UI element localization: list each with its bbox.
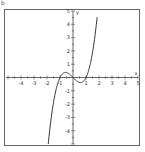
plot-area: -4-3-2-11234554321-1-2-3-4xy bbox=[0, 0, 145, 152]
y-tick-label: 5 bbox=[67, 8, 70, 14]
y-tick-label: 1 bbox=[67, 61, 70, 67]
y-tick-label: -2 bbox=[65, 101, 70, 107]
function-graph: b -4-3-2-11234554321-1-2-3-4xy bbox=[0, 0, 145, 152]
y-axis-label: y bbox=[76, 9, 79, 16]
y-tick-label: 3 bbox=[67, 34, 70, 40]
x-tick-label: 1 bbox=[84, 80, 87, 86]
x-tick-label: -3 bbox=[32, 80, 37, 86]
figure-label: b bbox=[1, 0, 5, 6]
x-tick-label: -4 bbox=[19, 80, 24, 86]
y-tick-label: -1 bbox=[65, 88, 70, 94]
tick-labels: -4-3-2-11234554321-1-2-3-4xy bbox=[19, 8, 140, 134]
x-tick-label: 2 bbox=[97, 80, 100, 86]
x-tick-label: -2 bbox=[45, 80, 50, 86]
y-tick-label: 2 bbox=[67, 48, 70, 54]
y-tick-label: 4 bbox=[67, 21, 70, 27]
y-tick-label: -4 bbox=[65, 128, 70, 134]
x-tick-label: 3 bbox=[110, 80, 113, 86]
y-tick-label: -3 bbox=[65, 114, 70, 120]
x-tick-label: 5 bbox=[136, 80, 139, 86]
x-tick-label: 4 bbox=[123, 80, 126, 86]
x-axis-label: x bbox=[135, 70, 138, 76]
